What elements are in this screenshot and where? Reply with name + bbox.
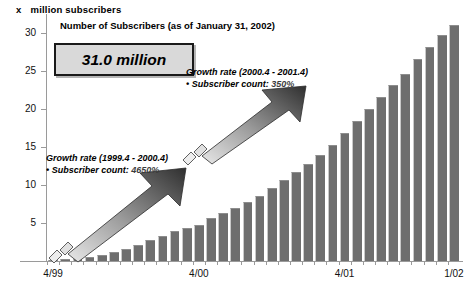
y-tick-label: 30 <box>2 27 36 38</box>
x-tick-mark <box>411 261 412 265</box>
bar <box>425 47 435 261</box>
x-tick-mark <box>363 261 364 265</box>
x-tick-mark <box>387 261 388 265</box>
x-tick-mark <box>302 261 303 265</box>
y-tick-label: 5 <box>2 217 36 228</box>
bar <box>279 180 289 261</box>
bar <box>328 145 338 261</box>
annotation-lower-bullet-label: • Subscriber count: <box>46 165 129 175</box>
bar <box>218 213 228 261</box>
chart-page: xmillion subscribers Number of Subscribe… <box>0 0 472 291</box>
bar <box>376 97 386 261</box>
bar <box>388 85 398 261</box>
bar <box>437 35 447 261</box>
value-callout-box: 31.0 million <box>54 43 194 76</box>
y-tick-label: 20 <box>2 103 36 114</box>
annotation-growth-lower: Growth rate (1999.4 - 2000.4) • Subscrib… <box>46 152 168 176</box>
annotation-lower-bullet: • Subscriber count: 4650% <box>46 164 168 176</box>
bar <box>413 59 423 261</box>
annotation-upper-heading: Growth rate (2000.4 - 2001.4) <box>186 66 308 78</box>
x-tick-mark <box>326 261 327 265</box>
x-tick-mark <box>217 261 218 265</box>
x-tick-mark <box>424 261 425 265</box>
annotation-lower-heading: Growth rate (1999.4 - 2000.4) <box>46 152 168 164</box>
x-tick-mark <box>266 261 267 265</box>
x-tick-label: 4/00 <box>189 268 208 279</box>
bar <box>449 25 459 261</box>
growth-arrow-upper-icon <box>196 86 326 166</box>
x-tick-mark <box>241 261 242 265</box>
x-tick-mark <box>436 261 437 265</box>
x-tick-mark <box>351 261 352 265</box>
x-tick-label: 1/02 <box>444 268 463 279</box>
bar <box>400 74 410 261</box>
bar <box>315 155 325 261</box>
y-tick-label: 10 <box>2 179 36 190</box>
bar <box>230 208 240 261</box>
bar <box>303 164 313 261</box>
x-tick-mark <box>254 261 255 265</box>
y-tick-label: 25 <box>2 65 36 76</box>
x-tick-mark <box>229 261 230 265</box>
annotation-upper-bullet: • Subscriber count: 350% <box>186 78 308 90</box>
bar <box>255 196 265 261</box>
bar <box>352 121 362 261</box>
annotation-upper-bullet-label: • Subscriber count: <box>186 79 269 89</box>
y-axis-unit-symbol: x <box>16 4 21 15</box>
growth-arrow-lower-icon <box>60 168 210 263</box>
x-tick-mark <box>314 261 315 265</box>
x-tick-mark <box>290 261 291 265</box>
annotation-growth-upper: Growth rate (2000.4 - 2001.4) • Subscrib… <box>186 66 308 90</box>
x-tick-mark <box>399 261 400 265</box>
value-callout-label: 31.0 million <box>82 51 166 69</box>
bar <box>364 109 374 261</box>
x-tick-label: 4/01 <box>335 268 354 279</box>
x-tick-mark <box>339 261 340 265</box>
bar <box>340 133 350 261</box>
y-tick-label: 15 <box>2 141 36 152</box>
bar <box>243 202 253 261</box>
x-tick-label: 4/99 <box>43 268 62 279</box>
x-tick-mark <box>47 261 48 265</box>
bar <box>267 188 277 261</box>
x-tick-mark <box>448 261 449 265</box>
x-tick-mark <box>375 261 376 265</box>
bar <box>291 172 301 261</box>
annotation-lower-bullet-value: 4650% <box>131 165 159 175</box>
x-tick-mark <box>278 261 279 265</box>
annotation-upper-bullet-value: 350% <box>271 79 294 89</box>
